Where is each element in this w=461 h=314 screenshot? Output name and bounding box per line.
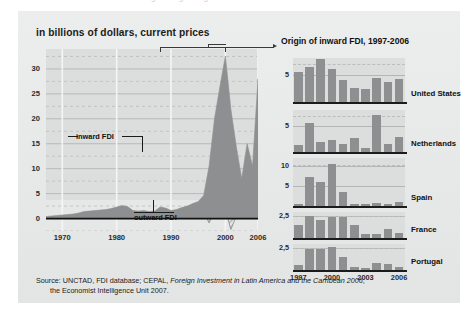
mini-y-tick-france-2,5: 2,5 xyxy=(271,211,289,220)
bar-france-2001 xyxy=(339,217,348,238)
mini-y-tick-spain-10: 10 xyxy=(271,161,289,170)
main-chart: 051015202530 19701980199020002006 inward… xyxy=(46,49,258,231)
leader-inward-left xyxy=(68,136,78,137)
bracket-arrow-head xyxy=(273,44,277,48)
main-x-tick-1990: 1990 xyxy=(156,233,186,242)
bar-france-1999 xyxy=(316,220,325,238)
bar-united-states-2002 xyxy=(350,88,359,102)
mini-country-label-france: France xyxy=(411,225,437,234)
leader-outward-riser xyxy=(153,200,154,212)
source-line2: the Economist Intelligence Unit 2007. xyxy=(50,286,365,296)
bar-netherlands-2002 xyxy=(350,138,359,152)
mini-y-tick-portugal-2,5: 2,5 xyxy=(271,243,289,252)
main-y-tick-20: 20 xyxy=(18,114,40,123)
main-x-tick-1970: 1970 xyxy=(47,233,77,242)
bar-netherlands-2005 xyxy=(384,144,393,152)
mini-country-label-united-states: United States xyxy=(411,89,461,98)
bar-netherlands-2004 xyxy=(372,115,381,152)
mini-gridline-dashed xyxy=(293,116,405,117)
bar-united-states-2000 xyxy=(328,69,337,102)
mini-baseline xyxy=(293,102,407,104)
bar-spain-2001 xyxy=(339,192,348,206)
main-x-tick-2006: 2006 xyxy=(243,233,273,242)
bar-netherlands-2006 xyxy=(395,137,404,152)
mini-gridline-dashed xyxy=(293,64,405,65)
bar-france-1997 xyxy=(294,225,303,238)
mini-country-label-spain: Spain xyxy=(411,193,432,202)
mini-gridline-10 xyxy=(293,166,405,167)
main-y-tick-15: 15 xyxy=(18,139,40,148)
main-y-tick-30: 30 xyxy=(18,64,40,73)
main-x-tick-2000: 2000 xyxy=(210,233,240,242)
leader-outward-underline xyxy=(134,212,174,213)
bar-spain-1998 xyxy=(305,177,314,206)
main-y-tick-0: 0 xyxy=(18,214,40,223)
mini-x-tick-2003: 2003 xyxy=(353,273,379,282)
bar-united-states-2001 xyxy=(339,80,348,102)
bar-france-1998 xyxy=(305,216,314,238)
bar-netherlands-1999 xyxy=(316,142,325,152)
bar-united-states-2003 xyxy=(361,89,370,102)
bar-united-states-1998 xyxy=(305,67,314,102)
bar-netherlands-1997 xyxy=(294,145,303,152)
cropped-header-text: Latin America : a region of growing inve… xyxy=(78,0,251,2)
mini-x-tick-1997: 1997 xyxy=(285,273,311,282)
label-outward-fdi: outward FDI xyxy=(134,213,177,222)
mini-y-tick-united-states-5: 5 xyxy=(271,70,289,79)
main-x-tick-1980: 1980 xyxy=(102,233,132,242)
source-line1-a: Source: UNCTAD, FDI database; CEPAL, xyxy=(36,276,170,285)
bar-portugal-2004 xyxy=(372,263,381,270)
bar-spain-1999 xyxy=(316,182,325,206)
mini-chart-united-states: 5United States xyxy=(293,58,405,106)
main-y-tick-25: 25 xyxy=(18,89,40,98)
right-panel-title: Origin of inward FDI, 1997-2006 xyxy=(281,36,409,46)
bar-france-2000 xyxy=(328,217,337,238)
leader-inward-right xyxy=(122,136,142,137)
leader-inward-drop xyxy=(142,136,143,152)
mini-chart-france: 2,5France xyxy=(293,212,405,242)
source-note: Source: UNCTAD, FDI database; CEPAL, For… xyxy=(36,276,365,296)
bar-france-2002 xyxy=(350,225,359,238)
mini-baseline xyxy=(293,238,407,240)
mini-y-tick-spain-5: 5 xyxy=(271,181,289,190)
label-inward-fdi: inward FDI xyxy=(76,132,114,141)
main-y-tick-10: 10 xyxy=(18,164,40,173)
bar-united-states-2005 xyxy=(384,82,393,102)
mini-x-tick-2006: 2006 xyxy=(386,273,412,282)
cropped-header-strip: Latin America : a region of growing inve… xyxy=(0,0,460,9)
bar-netherlands-2001 xyxy=(339,144,348,152)
main-y-tick-5: 5 xyxy=(18,189,40,198)
mini-baseline xyxy=(293,270,407,272)
mini-country-label-netherlands: Netherlands xyxy=(411,139,456,148)
mini-gridline-dashed xyxy=(293,165,405,166)
bar-united-states-1997 xyxy=(294,72,303,102)
mini-country-label-portugal: Portugal xyxy=(411,257,443,266)
bar-france-2005 xyxy=(384,229,393,238)
bracket-arrow-line xyxy=(208,47,274,48)
bar-portugal-2001 xyxy=(339,257,348,270)
bar-portugal-2000 xyxy=(328,247,337,270)
bar-united-states-1999 xyxy=(316,59,325,102)
mini-x-tick-2000: 2000 xyxy=(319,273,345,282)
chart-subtitle: in billions of dollars, current prices xyxy=(36,27,210,38)
bar-portugal-1998 xyxy=(305,249,314,270)
bar-netherlands-2000 xyxy=(328,140,337,152)
mini-y-tick-netherlands-5: 5 xyxy=(271,121,289,130)
period-bracket xyxy=(160,44,226,52)
mini-chart-spain: 510Spain xyxy=(293,158,405,210)
mini-chart-portugal: 2,5Portugal xyxy=(293,244,405,274)
bar-united-states-2006 xyxy=(395,79,404,102)
mini-baseline xyxy=(293,206,407,208)
bar-united-states-2004 xyxy=(372,78,381,102)
bar-portugal-1999 xyxy=(316,249,325,270)
bar-spain-2000 xyxy=(328,164,337,206)
mini-chart-netherlands: 5Netherlands xyxy=(293,110,405,156)
bar-netherlands-1998 xyxy=(305,123,314,152)
mini-baseline xyxy=(293,152,407,154)
